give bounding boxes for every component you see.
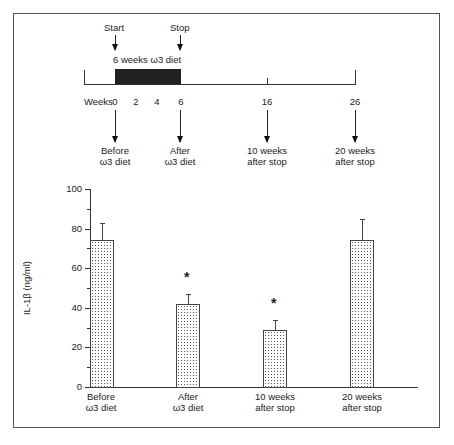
y-tick-label: 40 xyxy=(50,302,82,313)
y-tick-label: 60 xyxy=(50,262,82,273)
timepoint-line2: ω3 diet xyxy=(150,156,210,167)
down-arrow-icon xyxy=(115,110,116,142)
error-cap xyxy=(186,294,191,295)
timepoint-line2: after stop xyxy=(325,156,385,167)
error-bar xyxy=(362,219,363,240)
category-line2: ω3 diet xyxy=(158,402,218,413)
figure-frame xyxy=(13,13,440,428)
timepoint-label: 10 weeks after stop xyxy=(237,145,297,167)
week-tick-label: 6 xyxy=(176,96,186,107)
y-tick xyxy=(85,229,90,230)
week-tick-label: 26 xyxy=(348,96,362,107)
week-tick-label: 2 xyxy=(131,96,141,107)
error-cap xyxy=(273,320,278,321)
timepoint-label: Before ω3 diet xyxy=(85,145,145,167)
week-tick-label: 0 xyxy=(110,96,120,107)
category-line1: 20 weeks xyxy=(332,391,392,402)
diet-label: 6 weeks ω3 diet xyxy=(113,54,181,65)
timepoint-line2: ω3 diet xyxy=(85,156,145,167)
week-tick-label: 16 xyxy=(260,96,274,107)
timepoint-line2: after stop xyxy=(237,156,297,167)
error-bar xyxy=(102,223,103,240)
category-line2: ω3 diet xyxy=(71,402,131,413)
category-line1: After xyxy=(158,391,218,402)
timepoint-line1: 20 weeks xyxy=(325,145,385,156)
down-arrow-icon xyxy=(355,110,356,142)
start-label: Start xyxy=(104,22,124,33)
timepoint-label: After ω3 diet xyxy=(150,145,210,167)
week-tick-label: 4 xyxy=(152,96,162,107)
start-arrow-icon xyxy=(115,35,116,50)
y-tick-label: 20 xyxy=(50,341,82,352)
timepoint-line1: Before xyxy=(85,145,145,156)
y-minor-tick xyxy=(87,209,90,210)
x-category-label: After ω3 diet xyxy=(158,391,218,413)
down-arrow-icon xyxy=(267,110,268,142)
bar xyxy=(263,330,287,388)
weeks-label: Weeks xyxy=(84,96,113,107)
timepoint-line1: 10 weeks xyxy=(237,145,297,156)
error-cap xyxy=(100,223,105,224)
error-bar xyxy=(275,320,276,330)
x-category-label: 20 weeks after stop xyxy=(332,391,392,413)
x-category-label: 10 weeks after stop xyxy=(245,391,305,413)
timeline-left-tick xyxy=(84,70,85,85)
category-line2: after stop xyxy=(332,402,392,413)
timeline-right-tick xyxy=(355,70,356,85)
significance-asterisk: * xyxy=(271,295,276,311)
stop-arrow-icon xyxy=(180,35,181,50)
diet-period-box xyxy=(115,69,181,84)
timeline-axis xyxy=(84,84,356,85)
error-cap xyxy=(360,219,365,220)
category-line1: Before xyxy=(71,391,131,402)
category-line2: after stop xyxy=(245,402,305,413)
bar xyxy=(350,240,374,388)
bar xyxy=(90,240,114,388)
timeline-week16-tick xyxy=(267,78,268,85)
x-category-label: Before ω3 diet xyxy=(71,391,131,413)
y-tick xyxy=(85,189,90,190)
significance-asterisk: * xyxy=(184,269,189,285)
bar xyxy=(176,304,200,388)
down-arrow-icon xyxy=(180,110,181,142)
category-line1: 10 weeks xyxy=(245,391,305,402)
y-axis-label: IL-1β (ng/ml) xyxy=(21,261,32,315)
error-bar xyxy=(188,294,189,304)
y-tick-label: 100 xyxy=(50,183,82,194)
timepoint-label: 20 weeks after stop xyxy=(325,145,385,167)
stop-label: Stop xyxy=(170,22,190,33)
timepoint-line1: After xyxy=(150,145,210,156)
y-tick-label: 80 xyxy=(50,223,82,234)
